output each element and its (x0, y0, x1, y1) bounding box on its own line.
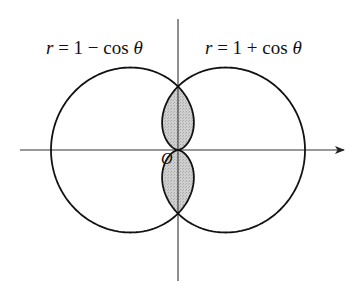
origin-label: O (161, 151, 173, 167)
equation-text: = 1 + cos (212, 37, 292, 58)
theta-symbol: θ (292, 37, 301, 58)
equation-text: = 1 − cos (53, 37, 133, 58)
left-cardioid-equation-label: r = 1 − cos θ (46, 38, 143, 57)
right-cardioid-equation-label: r = 1 + cos θ (205, 38, 302, 57)
theta-symbol: θ (133, 37, 142, 58)
